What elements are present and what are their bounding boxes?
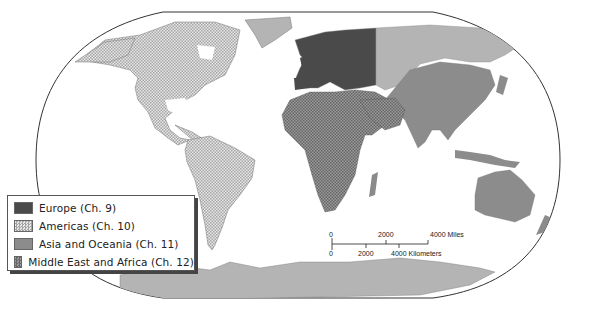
legend-label: Middle East and Africa (Ch. 12): [28, 256, 194, 268]
legend-label: Asia and Oceania (Ch. 11): [39, 238, 178, 250]
americas-swatch: [14, 220, 33, 232]
scale-km-0: 0: [329, 250, 333, 257]
legend-item-asia-oceania: Asia and Oceania (Ch. 11): [14, 235, 194, 252]
legend-item-americas: Americas (Ch. 10): [14, 217, 194, 234]
scale-miles-4000: 4000 Miles: [430, 231, 464, 238]
legend-label: Americas (Ch. 10): [39, 220, 135, 232]
scale-miles-0: 0: [329, 231, 333, 238]
middle-east-africa-swatch: [14, 256, 22, 268]
scale-km-2000: 2000: [358, 250, 374, 257]
legend-label: Europe (Ch. 9): [39, 202, 116, 214]
legend-item-europe: Europe (Ch. 9): [14, 199, 194, 216]
asia-oceania-swatch: [14, 238, 33, 250]
scale-miles-2000: 2000: [378, 231, 394, 238]
scale-km-4000: 4000 Kilometers: [391, 250, 442, 257]
legend-item-middle-east-africa: Middle East and Africa (Ch. 12): [14, 253, 194, 270]
map-legend: Europe (Ch. 9) Americas (Ch. 10) Asia an…: [7, 195, 195, 271]
europe-swatch: [14, 202, 33, 214]
